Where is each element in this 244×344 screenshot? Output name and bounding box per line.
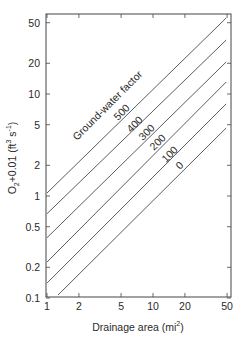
y-tick-label: 1 (34, 190, 40, 202)
log-log-chart: 125102050 0.10.20.5125102050 Ground-wate… (0, 0, 244, 344)
y-tick-label: 5 (34, 119, 40, 131)
series-label-0: 0 (173, 159, 186, 172)
y-tick-label: 50 (28, 17, 40, 29)
x-tick-label: 1 (44, 300, 50, 312)
y-axis-ticks: 0.10.20.5125102050 (25, 17, 231, 304)
x-tick-label: 2 (76, 300, 82, 312)
y-tick-label: 20 (28, 57, 40, 69)
x-tick-label: 20 (179, 300, 191, 312)
plot-frame (46, 14, 231, 297)
y-tick-label: 0.1 (25, 292, 40, 304)
series-labels: 5004003002001000 (111, 101, 186, 171)
series-line-500 (47, 18, 226, 193)
x-tick-label: 10 (147, 300, 159, 312)
series-line-200 (47, 82, 226, 262)
series-lines (47, 18, 226, 295)
x-tick-label: 50 (221, 300, 233, 312)
x-tick-label: 5 (118, 300, 124, 312)
y-tick-label: 2 (34, 159, 40, 171)
x-axis-ticks: 125102050 (44, 14, 233, 312)
series-line-0 (58, 128, 226, 295)
y-axis-label: O2+0.01 (ft3 s-1) (5, 122, 20, 195)
x-axis-label: Drainage area (mi2) (92, 320, 183, 333)
y-tick-label: 0.2 (25, 261, 40, 273)
y-tick-label: 0.5 (25, 221, 40, 233)
y-tick-label: 10 (28, 88, 40, 100)
series-line-300 (47, 62, 226, 238)
